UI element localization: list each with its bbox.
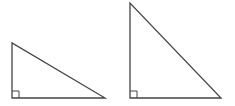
left-triangle [12, 43, 105, 98]
right-angle-marker-icon [12, 91, 19, 98]
left-triangle-shape [12, 43, 105, 98]
right-triangle-shape [130, 3, 221, 98]
right-angle-marker-icon [130, 91, 137, 98]
right-triangle [130, 3, 221, 98]
diagram-canvas [0, 0, 235, 106]
